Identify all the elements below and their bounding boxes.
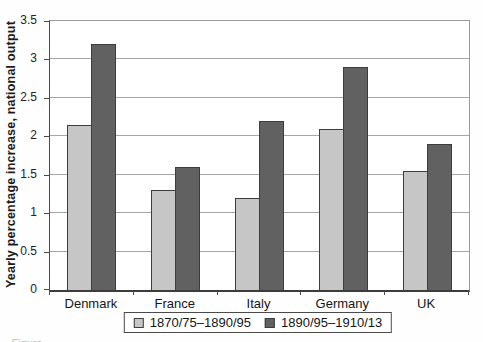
bar-chart-figure: Yearly percentage increase, national out… [0,0,483,342]
y-tick-label: 3 [1,51,37,65]
legend-item-dark: 1890/95–1910/13 [265,316,382,329]
y-tick-label: 1 [1,205,37,219]
bar-group-denmark [50,21,134,290]
bar-germany-dark [343,67,368,290]
x-tick-mark [300,291,301,295]
y-tick-label: 0 [1,282,37,296]
bar-group-germany [301,21,385,290]
y-tick-label: 1.5 [1,167,37,181]
y-tick-label: 2 [1,128,37,142]
bar-denmark-light [67,125,92,290]
y-axis-tick-labels: 00.511.522.533.5 [0,20,43,289]
category-label-uk: UK [384,296,468,311]
legend-item-light: 1870/75–1890/95 [134,316,251,329]
x-tick-mark [49,291,50,295]
bar-uk-light [403,171,428,290]
bar-italy-dark [259,121,284,290]
bar-italy-light [235,198,260,290]
y-tick-mark [44,136,49,137]
bar-france-dark [175,167,200,290]
bar-uk-dark [427,144,452,290]
y-tick-mark [44,289,49,290]
y-tick-mark [44,252,49,253]
caption-partial: Figure [11,337,211,342]
bar-denmark-dark [91,44,116,290]
category-label-france: France [133,296,217,311]
y-tick-mark [44,175,49,176]
bar-france-light [151,190,176,290]
legend-label: 1870/75–1890/95 [150,316,251,329]
plot-area [49,20,470,292]
x-tick-mark [468,291,469,295]
x-tick-mark [384,291,385,295]
legend: 1870/75–1890/951890/95–1910/13 [124,312,392,333]
x-tick-mark [133,291,134,295]
category-label-denmark: Denmark [49,296,133,311]
legend-swatch-light [134,318,144,328]
legend-swatch-dark [265,318,275,328]
y-tick-label: 3.5 [1,13,37,27]
y-tick-mark [44,213,49,214]
y-tick-label: 2.5 [1,90,37,104]
bar-group-italy [218,21,302,290]
y-tick-mark [44,21,49,22]
bar-germany-light [319,129,344,290]
bar-group-uk [385,21,469,290]
legend-label: 1890/95–1910/13 [281,316,382,329]
y-tick-label: 0.5 [1,244,37,258]
y-tick-mark [44,59,49,60]
bar-group-france [134,21,218,290]
category-label-italy: Italy [217,296,301,311]
y-tick-mark [44,98,49,99]
x-tick-mark [217,291,218,295]
x-axis-category-labels: DenmarkFranceItalyGermanyUK [49,296,468,312]
category-label-germany: Germany [300,296,384,311]
